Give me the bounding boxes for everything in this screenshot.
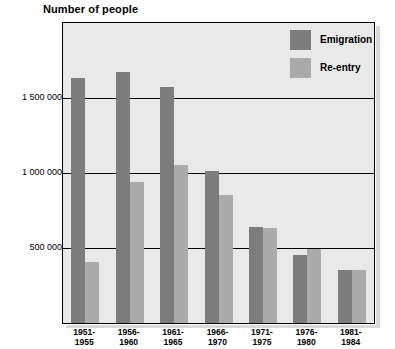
x-axis-labels: 1951-19551956-19601961-19651966-19701971… (62, 327, 375, 349)
bar-re-entry (174, 165, 188, 323)
x-tick-line1: 1961- (162, 327, 184, 337)
x-tick-line1: 1981- (340, 327, 362, 337)
x-tick-line1: 1966- (207, 327, 229, 337)
bar-emigration (71, 78, 85, 323)
x-tick-label: 1971-1975 (240, 327, 284, 347)
x-tick-line1: 1971- (251, 327, 273, 337)
bar-emigration (249, 227, 263, 323)
legend-swatch (290, 30, 311, 50)
bar-re-entry (263, 228, 277, 323)
x-tick-label: 1976-1980 (284, 327, 328, 347)
bar-group (205, 23, 233, 323)
bar-chart: Number of people 500 0001 000 0001 500 0… (0, 0, 395, 349)
bar-group (249, 23, 277, 323)
x-tick-line2: 1960 (107, 337, 151, 347)
x-tick-line2: 1980 (284, 337, 328, 347)
frame-shadow-right (376, 26, 380, 326)
legend-swatch (290, 58, 311, 78)
x-tick-line1: 1956- (118, 327, 140, 337)
bar-re-entry (130, 182, 144, 323)
bar-emigration (293, 255, 307, 323)
bar-group (160, 23, 188, 323)
legend-label: Emigration (320, 34, 372, 45)
legend-label: Re-entry (320, 62, 361, 73)
y-tick-label: 500 000 (29, 242, 62, 252)
bar-re-entry (307, 249, 321, 323)
x-tick-label: 1951-1955 (62, 327, 106, 347)
bar-emigration (205, 171, 219, 323)
x-tick-label: 1961-1965 (151, 327, 195, 347)
bar-re-entry (219, 195, 233, 323)
bar-emigration (116, 72, 130, 323)
x-tick-line2: 1975 (240, 337, 284, 347)
x-tick-line2: 1970 (196, 337, 240, 347)
bar-re-entry (352, 270, 366, 323)
x-tick-label: 1981-1984 (329, 327, 373, 347)
y-tick-label: 1 000 000 (22, 167, 62, 177)
bar-group (116, 23, 144, 323)
x-tick-line2: 1984 (329, 337, 373, 347)
x-tick-line2: 1965 (151, 337, 195, 347)
bar-emigration (160, 87, 174, 323)
x-tick-line1: 1976- (295, 327, 317, 337)
x-tick-line1: 1951- (73, 327, 95, 337)
x-tick-line2: 1955 (62, 337, 106, 347)
page-title: Number of people (43, 3, 138, 15)
y-tick-label: 1 500 000 (22, 92, 62, 102)
bar-emigration (338, 270, 352, 323)
x-tick-label: 1966-1970 (196, 327, 240, 347)
x-tick-label: 1956-1960 (107, 327, 151, 347)
bar-group (71, 23, 99, 323)
bar-re-entry (85, 262, 99, 323)
